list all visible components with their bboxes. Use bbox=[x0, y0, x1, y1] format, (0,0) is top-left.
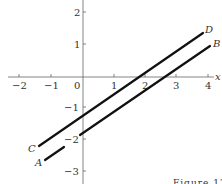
y-tick-label: −2 bbox=[64, 134, 79, 145]
y-ticks bbox=[83, 12, 86, 171]
line-ab-lower-segment bbox=[45, 147, 64, 160]
point-label-b: B bbox=[212, 38, 220, 49]
x-tick-label: −2 bbox=[12, 80, 27, 91]
figure-caption: Figure 12-2 bbox=[173, 178, 222, 184]
y-tick-label: −1 bbox=[64, 102, 79, 113]
figure-12-2: −2 −1 0 1 2 3 4 x 2 1 −1 −2 −3 C A D B F… bbox=[0, 0, 222, 184]
y-tick-label: −3 bbox=[64, 166, 79, 177]
x-axis-label: x bbox=[215, 71, 221, 82]
x-ticks bbox=[19, 74, 208, 77]
point-label-c: C bbox=[28, 143, 36, 154]
x-tick-label: 4 bbox=[205, 80, 211, 91]
x-tick-label: 1 bbox=[111, 80, 117, 91]
point-label-d: D bbox=[204, 24, 213, 35]
point-label-a: A bbox=[34, 157, 42, 168]
x-tick-label: 0 bbox=[74, 80, 80, 91]
y-tick-label: 1 bbox=[74, 39, 80, 50]
x-tick-label: −1 bbox=[44, 80, 59, 91]
y-tick-label: 2 bbox=[74, 7, 80, 18]
x-tick-label: 3 bbox=[173, 80, 179, 91]
line-ab bbox=[80, 46, 210, 135]
